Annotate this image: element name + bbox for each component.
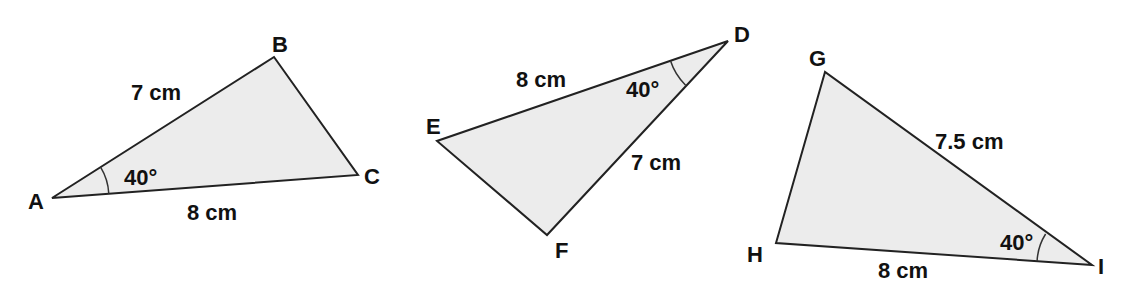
side-label-df: 7 cm (631, 150, 681, 175)
vertex-label-c: C (364, 164, 380, 189)
vertex-label-b: B (272, 32, 288, 57)
triangle-abc: A B C 7 cm 8 cm 40° (28, 32, 380, 225)
vertex-label-i: I (1098, 254, 1104, 279)
side-label-hi: 8 cm (878, 258, 928, 283)
side-label-de: 8 cm (516, 67, 566, 92)
vertex-label-d-e: E (426, 114, 441, 139)
side-label-ac: 8 cm (187, 200, 237, 225)
triangle-abc-shape (52, 57, 358, 198)
side-label-ab: 7 cm (131, 80, 181, 105)
angle-label-a: 40° (124, 165, 157, 190)
vertex-label-g: G (809, 46, 826, 71)
triangles-diagram: A B C 7 cm 8 cm 40° E D F 8 cm 7 cm 40° … (0, 0, 1126, 299)
triangle-ghi: G H I 7.5 cm 8 cm 40° (747, 46, 1104, 283)
angle-label-i: 40° (1000, 230, 1033, 255)
triangle-def: E D F 8 cm 7 cm 40° (426, 22, 750, 263)
vertex-label-d: D (734, 22, 750, 47)
vertex-label-a: A (28, 189, 44, 214)
vertex-label-h: H (747, 242, 763, 267)
side-label-gi: 7.5 cm (935, 129, 1004, 154)
diagram-svg: A B C 7 cm 8 cm 40° E D F 8 cm 7 cm 40° … (0, 0, 1126, 299)
angle-label-d: 40° (626, 77, 659, 102)
triangle-def-shape (437, 41, 728, 235)
vertex-label-f: F (555, 238, 568, 263)
